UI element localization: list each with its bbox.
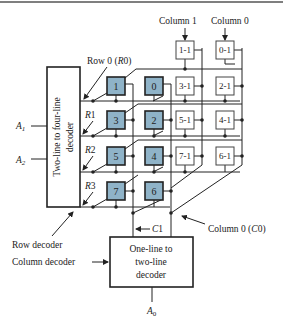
svg-text:0-1: 0-1 <box>219 45 231 55</box>
shaded-cell: 6 <box>145 182 163 200</box>
svg-text:3: 3 <box>114 115 119 126</box>
svg-text:0: 0 <box>152 81 157 92</box>
memory-decoder-diagram: Column 1 Column 0 Two-line to four-line … <box>0 0 283 331</box>
svg-text:5-1: 5-1 <box>179 115 191 125</box>
column-decoder-line1: One-line to <box>129 244 172 254</box>
c0-arrow-icon <box>182 216 205 224</box>
plain-cell: 6-1 <box>216 147 234 165</box>
svg-text:4-1: 4-1 <box>219 115 231 125</box>
svg-text:2-1: 2-1 <box>219 81 231 91</box>
plain-cell: 2-1 <box>216 77 234 95</box>
input-a1-label: A1 <box>15 121 25 133</box>
svg-text:2: 2 <box>152 115 157 126</box>
column-1-label: Column 1 <box>159 16 197 26</box>
row-0-label: Row 0 (R0) <box>87 56 131 67</box>
svg-text:3-1: 3-1 <box>179 81 191 91</box>
row-0-arrow-icon <box>84 67 107 99</box>
svg-text:1: 1 <box>114 81 119 92</box>
shaded-cell: 1 <box>107 77 125 95</box>
svg-text:6: 6 <box>152 186 157 197</box>
shaded-cell: 7 <box>107 182 125 200</box>
row-3-label: R3 <box>84 181 96 191</box>
shaded-cell: 4 <box>145 147 163 165</box>
row-decoder-caption: Row decoder <box>12 240 63 250</box>
c0-label: Column 0 (C0) <box>208 224 266 235</box>
svg-text:decoder: decoder <box>65 121 75 152</box>
column-decoder-line3: decoder <box>136 270 167 280</box>
shaded-cell: 0 <box>145 77 163 95</box>
row-3-arrow-icon <box>83 192 93 205</box>
input-a2-label: A2 <box>15 155 26 167</box>
svg-text:7-1: 7-1 <box>179 151 191 161</box>
plain-cell: 7-1 <box>176 147 194 165</box>
row-decoder-arrow-icon <box>52 212 73 236</box>
svg-text:6-1: 6-1 <box>219 151 231 161</box>
plain-cell: 3-1 <box>176 77 194 95</box>
svg-text:5: 5 <box>114 151 119 162</box>
svg-text:Two-line to four-line: Two-line to four-line <box>52 97 62 176</box>
plain-cell: 0-1 <box>216 41 234 59</box>
column-decoder-caption: Column decoder <box>12 257 76 267</box>
plain-cell: 4-1 <box>216 111 234 129</box>
input-a0-label: A0 <box>146 306 157 318</box>
c1-label: C1 <box>152 224 163 234</box>
row-2-label: R2 <box>84 145 96 155</box>
shaded-cell: 5 <box>107 147 125 165</box>
column-0-label: Column 0 <box>211 16 249 26</box>
row-2-arrow-icon <box>83 156 93 170</box>
svg-text:1-1: 1-1 <box>179 45 191 55</box>
plain-cell: 1-1 <box>176 41 194 59</box>
plain-cell: 5-1 <box>176 111 194 129</box>
svg-text:4: 4 <box>152 151 157 162</box>
row-1-arrow-icon <box>83 121 93 134</box>
shaded-cell: 3 <box>107 111 125 129</box>
column-decoder-line2: two-line <box>135 257 167 267</box>
svg-text:7: 7 <box>114 186 119 197</box>
row-1-label: R1 <box>84 110 96 120</box>
shaded-cell: 2 <box>145 111 163 129</box>
